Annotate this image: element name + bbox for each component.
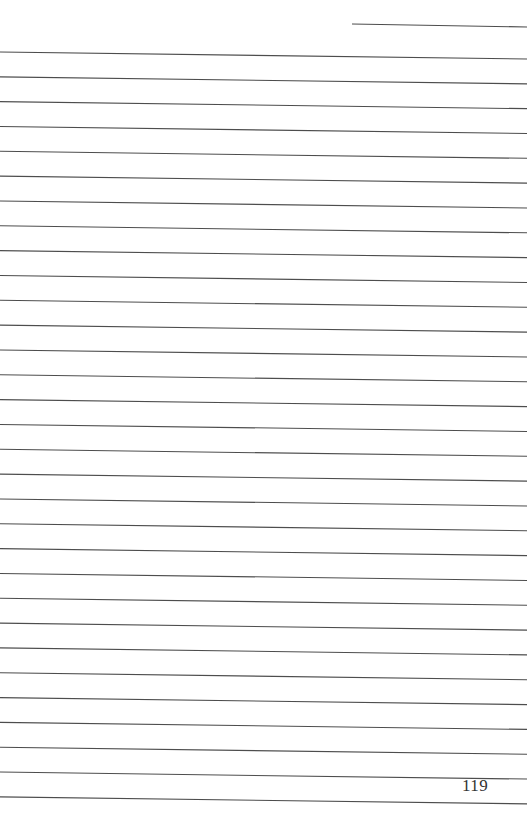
ruled-line xyxy=(0,474,527,481)
ruled-line-group xyxy=(0,52,527,804)
ruled-line xyxy=(0,573,527,580)
ruled-line xyxy=(0,400,527,407)
ruled-line xyxy=(0,226,527,233)
ruled-line xyxy=(0,648,527,655)
ruled-line xyxy=(0,698,527,705)
ruled-line xyxy=(0,598,527,605)
ruled-line xyxy=(0,499,527,506)
header-rule-line xyxy=(352,24,527,27)
ruled-line xyxy=(0,350,527,357)
ruled-line xyxy=(0,201,527,208)
ruled-line xyxy=(0,424,527,431)
ruled-line xyxy=(0,549,527,556)
ruled-line xyxy=(0,275,527,282)
ruled-line xyxy=(0,524,527,531)
ruled-line xyxy=(0,102,527,109)
ruled-line xyxy=(0,623,527,630)
ruled-line xyxy=(0,449,527,456)
ruled-line xyxy=(0,673,527,680)
ruled-line xyxy=(0,300,527,307)
notebook-page: 119 xyxy=(0,0,530,820)
ruled-line xyxy=(0,797,527,804)
ruled-line xyxy=(0,176,527,183)
ruled-line xyxy=(0,325,527,332)
ruled-line xyxy=(0,151,527,158)
ruled-line xyxy=(0,126,527,133)
ruled-line xyxy=(0,52,527,59)
ruled-line xyxy=(0,722,527,729)
ruled-line xyxy=(0,77,527,84)
ruled-line xyxy=(0,375,527,382)
page-number: 119 xyxy=(462,776,488,796)
ruled-lines xyxy=(0,0,530,820)
ruled-line xyxy=(0,772,527,779)
ruled-line xyxy=(0,251,527,258)
ruled-line xyxy=(0,747,527,754)
